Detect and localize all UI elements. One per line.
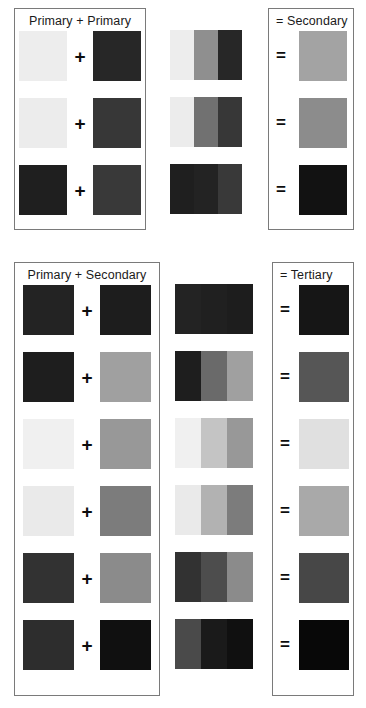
mix-strip xyxy=(170,30,242,80)
plus-operator: + xyxy=(74,502,100,521)
tertiary-result-panel: = Tertiary ====== xyxy=(272,262,354,696)
mix-strip-band xyxy=(218,97,242,147)
mix-strip xyxy=(170,97,242,147)
mix-strip-band xyxy=(201,552,227,602)
right-color-swatch xyxy=(93,31,141,81)
mix-row: + xyxy=(15,419,159,469)
result-color-swatch xyxy=(299,553,349,603)
tertiary-panel-title: = Tertiary xyxy=(273,268,353,282)
mix-strip-band xyxy=(227,351,253,401)
mix-strip-band xyxy=(175,619,201,669)
result-color-swatch xyxy=(299,98,347,148)
mix-strip-band xyxy=(170,97,194,147)
mix-strip-band xyxy=(194,30,218,80)
right-color-swatch xyxy=(100,352,151,402)
result-color-swatch xyxy=(299,31,347,81)
plus-operator: + xyxy=(74,435,100,454)
right-color-swatch xyxy=(100,486,151,536)
mix-strip-band xyxy=(201,351,227,401)
result-color-swatch xyxy=(299,620,349,670)
left-color-swatch xyxy=(19,98,67,148)
mix-strip-band xyxy=(175,418,201,468)
mix-strip xyxy=(175,351,253,401)
mix-strip-band xyxy=(194,97,218,147)
right-color-swatch xyxy=(100,620,151,670)
mix-strip-band xyxy=(175,284,201,334)
equals-operator: = xyxy=(280,569,290,586)
mix-strip-band xyxy=(227,284,253,334)
equals-operator: = xyxy=(280,368,290,385)
mix-strip-band xyxy=(227,485,253,535)
mix-strip xyxy=(175,418,253,468)
result-color-swatch xyxy=(299,419,349,469)
equals-operator: = xyxy=(280,301,290,318)
mix-row: + xyxy=(15,31,145,81)
left-color-swatch xyxy=(19,165,67,215)
left-color-swatch xyxy=(23,486,74,536)
mix-strip xyxy=(175,485,253,535)
right-color-swatch xyxy=(93,165,141,215)
left-color-swatch xyxy=(19,31,67,81)
mix-strip xyxy=(175,619,253,669)
result-color-swatch xyxy=(299,285,349,335)
mix-strip-band xyxy=(201,619,227,669)
right-color-swatch xyxy=(100,285,151,335)
mix-strip-band xyxy=(170,164,194,214)
mix-row: + xyxy=(15,98,145,148)
left-color-swatch xyxy=(23,352,74,402)
secondary-mix-column xyxy=(160,8,252,230)
plus-operator: + xyxy=(67,47,93,66)
mix-row: + xyxy=(15,486,159,536)
tertiary-mix-column xyxy=(168,262,260,696)
mix-strip-band xyxy=(218,164,242,214)
equals-operator: = xyxy=(280,636,290,653)
mix-strip-band xyxy=(201,485,227,535)
mix-row: + xyxy=(15,553,159,603)
equals-operator: = xyxy=(276,47,286,64)
equals-operator: = xyxy=(280,435,290,452)
right-color-swatch xyxy=(100,419,151,469)
equals-operator: = xyxy=(276,114,286,131)
mix-row: + xyxy=(15,620,159,670)
mix-strip-band xyxy=(194,164,218,214)
secondary-result-panel: = Secondary === xyxy=(268,8,354,230)
primary-plus-secondary-panel: Primary + Secondary ++++++ xyxy=(14,262,160,696)
result-color-swatch xyxy=(299,486,349,536)
plus-operator: + xyxy=(67,114,93,133)
plus-operator: + xyxy=(74,569,100,588)
mix-strip-band xyxy=(227,619,253,669)
mix-strip xyxy=(170,164,242,214)
mix-strip-band xyxy=(218,30,242,80)
left-color-swatch xyxy=(23,419,74,469)
mix-strip xyxy=(175,284,253,334)
left-color-swatch xyxy=(23,553,74,603)
result-color-swatch xyxy=(299,352,349,402)
mix-row: + xyxy=(15,285,159,335)
right-color-swatch xyxy=(93,98,141,148)
mix-strip-band xyxy=(175,351,201,401)
primary-panel-title: Primary + Primary xyxy=(15,14,145,28)
plus-operator: + xyxy=(74,301,100,320)
right-color-swatch xyxy=(100,553,151,603)
plus-operator: + xyxy=(67,181,93,200)
plus-operator: + xyxy=(74,368,100,387)
mix-strip-band xyxy=(201,284,227,334)
mix-strip-band xyxy=(175,485,201,535)
left-color-swatch xyxy=(23,620,74,670)
mix-row: + xyxy=(15,352,159,402)
plus-operator: + xyxy=(74,636,100,655)
mix-row: + xyxy=(15,165,145,215)
mix-strip-band xyxy=(175,552,201,602)
result-color-swatch xyxy=(299,165,347,215)
mix-strip-band xyxy=(170,30,194,80)
mix-strip-band xyxy=(227,418,253,468)
equals-operator: = xyxy=(280,502,290,519)
secondary-panel-title: = Secondary xyxy=(269,14,353,28)
equals-operator: = xyxy=(276,181,286,198)
mix-strip-band xyxy=(227,552,253,602)
mix-strip-band xyxy=(201,418,227,468)
primary-secondary-panel-title: Primary + Secondary xyxy=(15,268,159,282)
primary-plus-primary-panel: Primary + Primary +++ xyxy=(14,8,146,230)
left-color-swatch xyxy=(23,285,74,335)
mix-strip xyxy=(175,552,253,602)
